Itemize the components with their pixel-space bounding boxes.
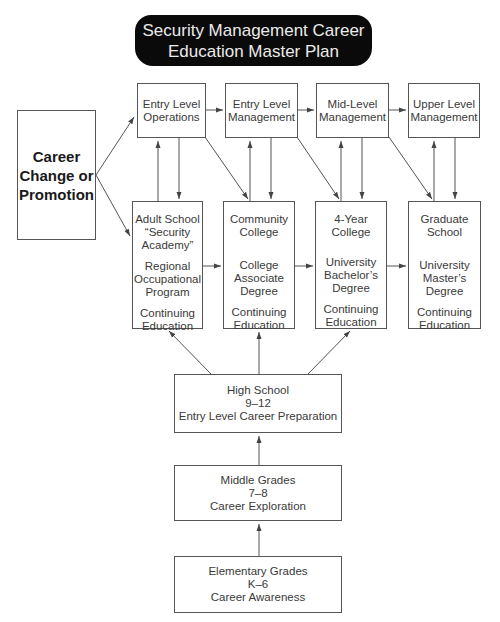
box-group: Continuing Education [140, 307, 195, 333]
box-line: 4-Year College [316, 213, 386, 239]
box-line: Entry Level Career Preparation [179, 410, 338, 423]
upper-level-management-box: Upper Level Management [408, 83, 480, 138]
box-label: Entry Level [143, 98, 201, 111]
box-group: College Associate Degree [234, 259, 284, 298]
box-line: Career Awareness [211, 591, 305, 604]
box-group: Continuing Education [232, 306, 287, 332]
box-label: Entry Level [233, 98, 291, 111]
box-line: 7–8 [248, 487, 267, 500]
box-label: Operations [143, 111, 199, 124]
box-line: Occupational [134, 273, 201, 286]
elementary-grades-box: Elementary Grades K–6 Career Awareness [174, 556, 342, 613]
entry-level-management-box: Entry Level Management [225, 83, 298, 138]
box-line: Master’s [419, 272, 469, 285]
box-line: High School [227, 384, 289, 397]
box-line: Continuing [140, 307, 195, 320]
box-group: 4-Year College [316, 213, 386, 239]
box-line: K–6 [248, 578, 268, 591]
box-group: University Master’s Degree [419, 259, 469, 298]
title-line-2: Education Master Plan [168, 41, 339, 62]
box-label: Management [410, 111, 477, 124]
box-group: Continuing Education [417, 306, 472, 332]
box-line: Education [324, 316, 379, 329]
box-label: Management [228, 111, 295, 124]
middle-grades-box: Middle Grades 7–8 Career Exploration [174, 465, 342, 521]
box-group: Regional Occupational Program [134, 260, 201, 299]
box-line: Regional [134, 260, 201, 273]
box-line: College [234, 259, 284, 272]
box-label: Upper Level [413, 98, 475, 111]
title-line-1: Security Management Career [142, 20, 364, 41]
graduate-school-box: Graduate School University Master’s Degr… [408, 201, 481, 329]
box-line: Middle Grades [221, 474, 296, 487]
box-group: Adult School “Security Academy” [135, 213, 200, 252]
box-line: “Security [135, 226, 200, 239]
box-line: Elementary Grades [208, 565, 307, 578]
box-group: Community College [230, 213, 288, 239]
career-change-box: Career Change or Promotion [17, 110, 96, 240]
box-line: Graduate [421, 213, 469, 226]
box-line: 9–12 [245, 397, 271, 410]
mid-level-management-box: Mid-Level Management [316, 83, 389, 138]
box-line: Continuing [232, 306, 287, 319]
entry-level-operations-box: Entry Level Operations [137, 83, 206, 138]
career-line-2: Change or [19, 166, 93, 185]
adult-school-box: Adult School “Security Academy” Regional… [132, 201, 203, 329]
box-line: School [421, 226, 469, 239]
box-line: Degree [324, 282, 378, 295]
box-group: Continuing Education [324, 303, 379, 329]
box-line: University [419, 259, 469, 272]
box-line: Associate [234, 272, 284, 285]
box-line: Career Exploration [210, 500, 306, 513]
box-line: Program [134, 286, 201, 299]
box-group: Graduate School [421, 213, 469, 239]
career-line-1: Career [33, 147, 81, 166]
box-line: Education [417, 319, 472, 332]
diagram-title: Security Management Career Education Mas… [135, 15, 372, 66]
box-label: Management [319, 111, 386, 124]
box-line: Bachelor’s [324, 269, 378, 282]
box-line: University [324, 256, 378, 269]
box-group: University Bachelor’s Degree [324, 256, 378, 295]
box-line: Community [230, 213, 288, 226]
career-line-3: Promotion [19, 185, 94, 204]
community-college-box: Community College College Associate Degr… [223, 201, 295, 329]
box-line: Degree [234, 285, 284, 298]
box-line: Degree [419, 285, 469, 298]
box-line: Education [140, 320, 195, 333]
box-line: Academy” [135, 239, 200, 252]
box-line: Continuing [324, 303, 379, 316]
box-label: Mid-Level [328, 98, 378, 111]
box-line: College [230, 226, 288, 239]
box-line: Continuing [417, 306, 472, 319]
box-line: Adult School [135, 213, 200, 226]
four-year-college-box: 4-Year College University Bachelor’s Deg… [315, 201, 387, 329]
box-line: Education [232, 319, 287, 332]
high-school-box: High School 9–12 Entry Level Career Prep… [174, 374, 342, 433]
